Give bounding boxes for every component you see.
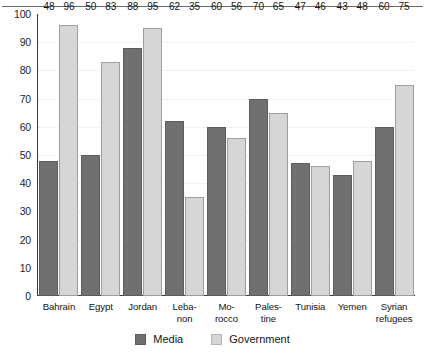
legend-label: Government [229,333,290,345]
bar-value-label: 83 [105,2,116,12]
bar-group: 4746 [289,14,331,296]
bar-value-label: 50 [85,2,96,12]
bar-slot: 88 [123,14,142,296]
bar-media[interactable]: 60 [207,127,226,296]
y-axis-tick-labels: 0102030405060708090100 [0,14,36,298]
bar-slot: 83 [101,14,120,296]
bar-slot: 50 [81,14,100,296]
bar-group: 7065 [247,14,289,296]
bar-media[interactable]: 50 [81,155,100,296]
bar-group: 6235 [164,14,206,296]
bar-government[interactable]: 95 [143,28,162,296]
bar-chart-figure: 0102030405060708090100 48965083889562356… [0,0,425,356]
bar-value-label: 47 [295,2,306,12]
y-axis-tick-70: 70 [20,93,31,105]
plot-area: 0102030405060708090100 48965083889562356… [0,14,425,304]
bar-value-label: 70 [253,2,264,12]
bar-media[interactable]: 43 [333,175,352,296]
bar-value-label: 35 [189,2,200,12]
bar-group: 4348 [331,14,373,296]
bar-slot: 75 [395,14,414,296]
legend-item-media[interactable]: Media [135,333,183,345]
x-axis-label-line: Yemen [331,301,373,313]
bar-slot: 48 [39,14,58,296]
bar-slot: 46 [311,14,330,296]
bar-government[interactable]: 56 [227,138,246,296]
bar-government[interactable]: 96 [59,25,78,296]
bar-groups: 489650838895623560567065474643486075 [38,14,415,296]
x-axis-label: Pales-tine [247,301,289,325]
x-axis-label: Syrianrefugees [373,301,415,325]
bar-slot: 56 [227,14,246,296]
x-axis-label: Jordan [122,301,164,325]
bar-value-label: 56 [231,2,242,12]
bar-government[interactable]: 83 [101,62,120,296]
bar-media[interactable]: 48 [39,161,58,296]
bar-value-label: 60 [211,2,222,12]
x-axis-label-line: Bahrain [38,301,80,313]
bar-value-label: 75 [399,2,410,12]
bar-group: 5083 [80,14,122,296]
legend-swatch-icon [135,334,146,345]
x-axis-label-line: Egypt [80,301,122,313]
bar-value-label: 43 [337,2,348,12]
x-axis-label: Egypt [80,301,122,325]
x-axis-label: Mo-rocco [206,301,248,325]
x-axis-label-line: rocco [206,313,248,325]
x-axis-label: Leba-non [164,301,206,325]
bar-value-label: 88 [127,2,138,12]
y-axis-tick-80: 80 [20,64,31,76]
bar-slot: 35 [185,14,204,296]
bar-government[interactable]: 48 [353,161,372,296]
x-axis-label-line: non [164,313,206,325]
bar-media[interactable]: 70 [249,99,268,296]
x-axis-label: Yemen [331,301,373,325]
bar-media[interactable]: 60 [375,127,394,296]
x-axis-label: Tunisia [289,301,331,325]
bar-slot: 70 [249,14,268,296]
bar-value-label: 65 [273,2,284,12]
x-axis-label-line: Jordan [122,301,164,313]
y-axis-tick-30: 30 [20,205,31,217]
bar-slot: 48 [353,14,372,296]
bar-value-label: 62 [169,2,180,12]
y-axis-tick-40: 40 [20,177,31,189]
legend-label: Media [153,333,183,345]
bar-value-label: 48 [43,2,54,12]
bar-slot: 47 [291,14,310,296]
bar-government[interactable]: 65 [269,113,288,296]
y-axis-tick-10: 10 [20,262,31,274]
bar-value-label: 95 [147,2,158,12]
bar-group: 6056 [206,14,248,296]
x-axis-label-line: refugees [373,313,415,325]
y-axis-tick-50: 50 [20,149,31,161]
bar-group: 6075 [373,14,415,296]
bar-value-label: 46 [315,2,326,12]
bar-government[interactable]: 46 [311,166,330,296]
bar-slot: 95 [143,14,162,296]
bar-media[interactable]: 62 [165,121,184,296]
x-axis-label: Bahrain [38,301,80,325]
bar-government[interactable]: 35 [185,197,204,296]
bar-value-label: 60 [379,2,390,12]
x-axis-label-line: Syrian [373,301,415,313]
bar-media[interactable]: 88 [123,48,142,296]
bar-slot: 62 [165,14,184,296]
x-axis-label-line: Pales- [247,301,289,313]
bar-group: 4896 [38,14,80,296]
legend-item-government[interactable]: Government [211,333,290,345]
bar-value-label: 48 [357,2,368,12]
x-axis-label-line: Mo- [206,301,248,313]
y-axis-tick-100: 100 [14,8,31,20]
y-axis-tick-0: 0 [25,290,31,302]
bar-slot: 60 [207,14,226,296]
bar-government[interactable]: 75 [395,85,414,297]
y-axis-tick-60: 60 [20,121,31,133]
y-axis-tick-90: 90 [20,36,31,48]
x-axis-category-labels: BahrainEgyptJordanLeba-nonMo-roccoPales-… [38,301,415,325]
bar-slot: 96 [59,14,78,296]
x-axis-label-line: Leba- [164,301,206,313]
bar-slot: 43 [333,14,352,296]
bar-media[interactable]: 47 [291,163,310,296]
bar-group: 8895 [122,14,164,296]
